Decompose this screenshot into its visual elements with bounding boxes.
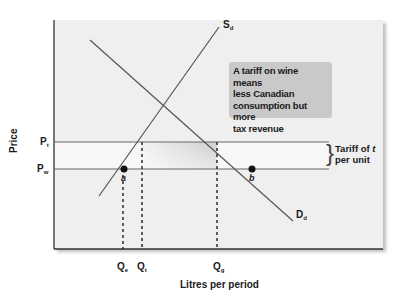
annotation-box: A tariff on wine means less Canadian con… (229, 62, 332, 118)
qg-label: Qg (213, 262, 224, 273)
supply-curve (99, 27, 219, 196)
note-line: less Canadian (233, 88, 328, 100)
brace-icon: } (326, 141, 334, 165)
qe-label: Qe (117, 262, 128, 273)
demand-label: Dd (296, 210, 307, 221)
tariff-variable: t (372, 143, 375, 154)
x-axis-label: Litres per period (180, 279, 259, 290)
note-line: consumption but more (233, 100, 328, 123)
point-a-marker (121, 166, 128, 173)
note-line: A tariff on wine means (233, 65, 328, 88)
pt-label: Pt (40, 137, 49, 148)
pw-label: Pw (37, 164, 48, 175)
supply-label: Sd (223, 20, 233, 31)
tariff-text: Tariff of (335, 143, 372, 154)
y-axis-label: Price (8, 129, 19, 153)
qt-label: Qt (137, 262, 147, 273)
note-line: tax revenue (233, 123, 328, 135)
point-a-label: a (121, 174, 126, 183)
tariff-text-line2: per unit (335, 154, 375, 165)
point-b-label: b (249, 174, 255, 183)
tariff-annotation: } Tariff of t per unit (335, 143, 375, 165)
point-b-marker (249, 166, 256, 173)
